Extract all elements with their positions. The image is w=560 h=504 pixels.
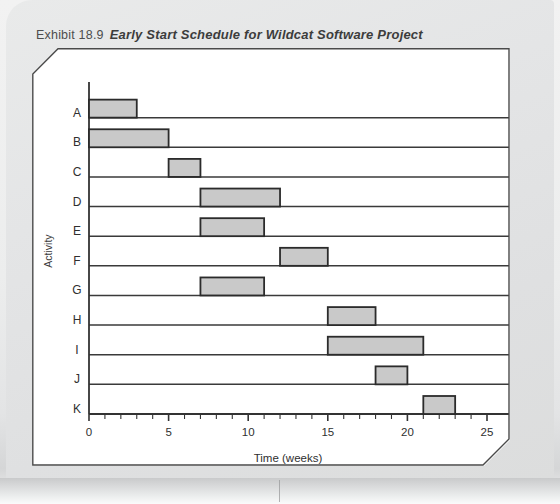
gantt-bar-a[interactable] bbox=[89, 100, 137, 118]
y-tick-label-c: C bbox=[73, 165, 82, 179]
exhibit-title: Exhibit 18.9Early Start Schedule for Wil… bbox=[36, 27, 506, 42]
exhibit-name: Early Start Schedule for Wildcat Softwar… bbox=[110, 27, 423, 42]
gantt-chart: 0510152025ABCDEFGHIJKTime (weeks)Activit… bbox=[32, 48, 510, 466]
y-tick-label-b: B bbox=[73, 135, 81, 149]
y-tick-label-h: H bbox=[73, 313, 82, 327]
gantt-bar-i[interactable] bbox=[328, 337, 424, 355]
exhibit-number: Exhibit 18.9 bbox=[36, 28, 104, 42]
gantt-bar-d[interactable] bbox=[200, 189, 280, 207]
gantt-bar-c[interactable] bbox=[169, 159, 201, 177]
gantt-bar-b[interactable] bbox=[89, 129, 169, 147]
y-tick-label-a: A bbox=[73, 106, 81, 120]
gantt-bar-e[interactable] bbox=[200, 218, 264, 236]
x-tick-label: 0 bbox=[86, 426, 92, 438]
gantt-bar-g[interactable] bbox=[200, 277, 264, 295]
y-tick-label-g: G bbox=[72, 283, 81, 297]
gantt-bar-j[interactable] bbox=[376, 366, 408, 384]
x-tick-label: 5 bbox=[165, 426, 171, 438]
page-bottom-shadow bbox=[0, 478, 560, 504]
y-tick-label-f: F bbox=[73, 254, 80, 268]
y-axis-title: Activity bbox=[42, 234, 54, 268]
y-tick-label-k: K bbox=[73, 402, 81, 416]
screenshot-root: Exhibit 18.9Early Start Schedule for Wil… bbox=[0, 0, 560, 504]
x-tick-label: 15 bbox=[321, 426, 334, 438]
y-tick-label-e: E bbox=[73, 224, 81, 238]
y-tick-label-d: D bbox=[73, 195, 82, 209]
chart-panel: 0510152025ABCDEFGHIJKTime (weeks)Activit… bbox=[32, 48, 510, 466]
gantt-bar-f[interactable] bbox=[280, 248, 328, 266]
y-tick-label-i: I bbox=[75, 343, 78, 357]
gantt-bar-h[interactable] bbox=[328, 307, 376, 325]
x-tick-label: 20 bbox=[401, 426, 414, 438]
gantt-bar-k[interactable] bbox=[423, 396, 455, 414]
y-tick-label-j: J bbox=[74, 372, 80, 386]
page-fold-line bbox=[279, 480, 280, 502]
x-tick-label: 25 bbox=[481, 426, 494, 438]
x-axis-title: Time (weeks) bbox=[254, 452, 323, 464]
x-tick-label: 10 bbox=[242, 426, 255, 438]
